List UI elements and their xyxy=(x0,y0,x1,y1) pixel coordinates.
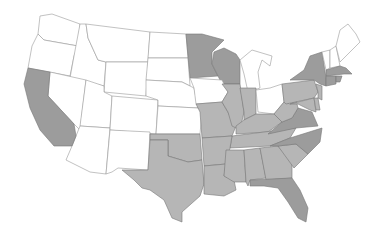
state-ks[interactable] xyxy=(156,106,202,134)
state-fl[interactable] xyxy=(250,178,308,222)
state-mi[interactable] xyxy=(240,50,272,92)
state-ri[interactable] xyxy=(336,76,342,82)
state-nm[interactable] xyxy=(106,130,150,174)
us-states-map xyxy=(0,0,375,237)
state-ia[interactable] xyxy=(190,78,228,104)
state-ct[interactable] xyxy=(326,76,336,86)
state-nd[interactable] xyxy=(148,32,188,58)
state-wy[interactable] xyxy=(104,62,148,96)
state-wi[interactable] xyxy=(212,48,240,84)
state-me[interactable] xyxy=(336,24,360,62)
state-ms[interactable] xyxy=(224,150,246,182)
state-co[interactable] xyxy=(110,96,158,134)
